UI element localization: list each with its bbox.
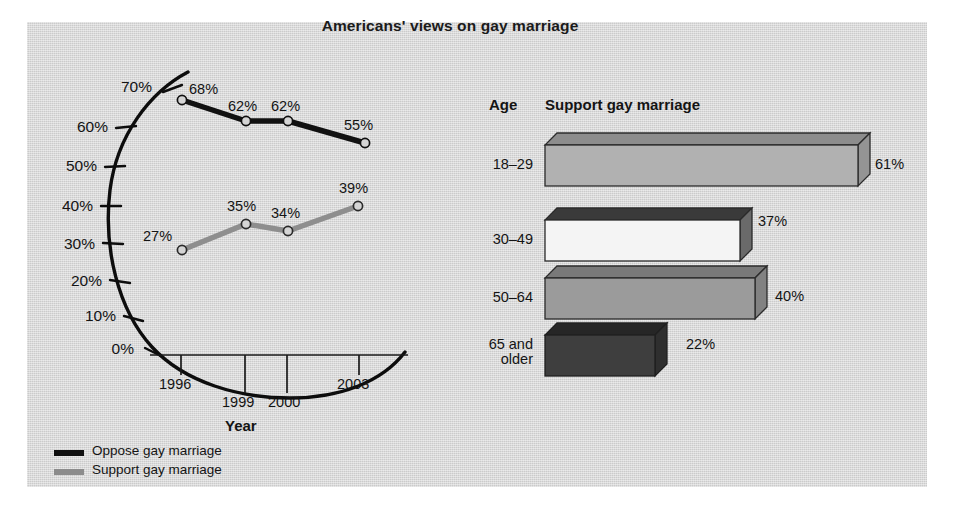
oppose-point-label-1999: 62% [228, 98, 257, 114]
oppose-point-label-2000: 62% [271, 98, 300, 114]
support-point-label-1999: 35% [227, 198, 256, 214]
x-tick-label-2003: 2003 [337, 376, 369, 392]
y-tick-label-20: 20% [46, 272, 102, 290]
bar-value-label-18-29: 61% [875, 156, 904, 172]
x-tick-label-1996: 1996 [159, 376, 191, 392]
bar-category-label-65-line1: 65 and [433, 337, 533, 352]
bar-category-label-30-49: 30–49 [433, 232, 533, 247]
bar-value-label-65-and-older: 22% [686, 336, 715, 352]
y-tick-label-10: 10% [60, 307, 116, 325]
support-point-label-2003: 39% [339, 180, 368, 196]
legend-label-support: Support gay marriage [92, 462, 222, 477]
legend-swatch-oppose [54, 450, 84, 456]
x-axis-title: Year [225, 417, 257, 434]
bar-category-label-18-29: 18–29 [433, 157, 533, 172]
bar-category-label-65-line2: older [433, 352, 533, 367]
y-tick-label-40: 40% [37, 197, 93, 215]
bar-value-label-30-49: 37% [758, 213, 787, 229]
y-tick-label-60: 60% [52, 118, 108, 136]
y-tick-label-70: 70% [96, 78, 152, 96]
x-tick-label-2000: 2000 [268, 394, 300, 410]
oppose-point-label-1996: 68% [189, 81, 218, 97]
bar-chart-value-header: Support gay marriage [545, 96, 700, 113]
x-tick-label-1999: 1999 [222, 394, 254, 410]
legend-swatch-support [54, 469, 84, 475]
bar-chart-age-header: Age [489, 96, 517, 113]
legend-label-oppose: Oppose gay marriage [92, 443, 222, 458]
support-point-label-2000: 34% [271, 205, 300, 221]
bar-category-label-65-and-older: 65 and older [433, 337, 533, 367]
oppose-point-label-2003: 55% [344, 117, 373, 133]
figure-root: Americans' views on gay marriage [0, 0, 954, 508]
bar-value-label-50-64: 40% [775, 288, 804, 304]
y-tick-label-0: 0% [78, 340, 134, 358]
y-tick-label-30: 30% [39, 235, 95, 253]
support-point-label-1996: 27% [143, 228, 172, 244]
y-tick-label-50: 50% [41, 157, 97, 175]
chart-title: Americans' views on gay marriage [0, 17, 900, 35]
chart-panel [27, 22, 927, 487]
bar-category-label-50-64: 50–64 [433, 290, 533, 305]
